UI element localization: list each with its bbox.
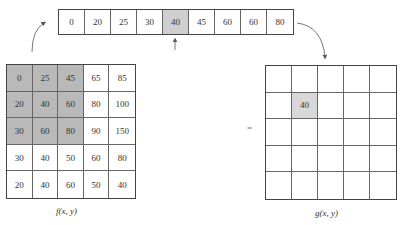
equals-sign: =: [247, 123, 252, 133]
output-pixel-cell: [344, 93, 370, 120]
sorted-value-cell: 0: [59, 10, 85, 34]
output-pixel-cell: [344, 119, 370, 146]
output-pixel-cell: [292, 172, 318, 199]
output-pixel-cell: [370, 146, 396, 173]
output-pixel-cell: [344, 66, 370, 93]
output-pixel-cell: [266, 66, 292, 93]
input-pixel-cell: 60: [84, 145, 110, 172]
output-pixel-cell: [292, 119, 318, 146]
input-pixel-cell: 150: [109, 118, 135, 145]
input-pixel-cell: 80: [109, 145, 135, 172]
output-pixel-cell: [318, 172, 344, 199]
output-pixel-cell: [318, 146, 344, 173]
right-curved-arrow-icon: [297, 23, 325, 57]
output-pixel-cell: [266, 93, 292, 120]
input-image-grid: 0254565852040608010030608090150304050608…: [6, 64, 136, 199]
input-pixel-cell: 90: [84, 118, 110, 145]
sorted-value-cell: 45: [189, 10, 215, 34]
output-pixel-cell: [318, 119, 344, 146]
sorted-value-cell: 25: [111, 10, 137, 34]
input-pixel-cell: 85: [109, 65, 135, 92]
input-pixel-cell: 60: [58, 171, 84, 198]
left-curved-arrow-icon: [32, 23, 44, 52]
input-pixel-cell: 40: [33, 171, 59, 198]
input-pixel-cell: 60: [33, 118, 59, 145]
input-pixel-cell: 80: [58, 118, 84, 145]
input-pixel-cell: 80: [84, 92, 110, 119]
input-pixel-cell: 60: [58, 92, 84, 119]
output-pixel-cell: [370, 66, 396, 93]
input-pixel-cell: 0: [7, 65, 33, 92]
input-pixel-cell: 65: [84, 65, 110, 92]
output-pixel-cell: [292, 66, 318, 93]
input-pixel-cell: 20: [7, 171, 33, 198]
sorted-value-cell: 60: [241, 10, 267, 34]
output-pixel-cell: [344, 172, 370, 199]
output-pixel-cell: [370, 172, 396, 199]
input-pixel-cell: 25: [33, 65, 59, 92]
output-pixel-cell: [266, 146, 292, 173]
input-pixel-cell: 40: [33, 145, 59, 172]
output-median-cell: 40: [292, 93, 318, 120]
output-pixel-cell: [370, 93, 396, 120]
sorted-value-cell: 20: [85, 10, 111, 34]
input-image-label: f(x, y): [56, 206, 77, 216]
output-pixel-cell: [266, 172, 292, 199]
sorted-value-cell: 30: [137, 10, 163, 34]
sorted-value-cell: 80: [267, 10, 293, 34]
input-pixel-cell: 50: [84, 171, 110, 198]
output-pixel-cell: [370, 119, 396, 146]
input-pixel-cell: 40: [33, 92, 59, 119]
median-cell: 40: [163, 10, 189, 34]
sorted-values-strip: 02025304045606080: [58, 9, 294, 35]
input-pixel-cell: 50: [58, 145, 84, 172]
output-image-label: g(x, y): [315, 208, 338, 218]
output-pixel-cell: [344, 146, 370, 173]
output-pixel-cell: [266, 119, 292, 146]
input-pixel-cell: 30: [7, 145, 33, 172]
input-pixel-cell: 40: [109, 171, 135, 198]
output-pixel-cell: [318, 93, 344, 120]
sorted-value-cell: 60: [215, 10, 241, 34]
output-image-grid: 40: [265, 65, 397, 200]
output-pixel-cell: [292, 146, 318, 173]
input-pixel-cell: 100: [109, 92, 135, 119]
input-pixel-cell: 45: [58, 65, 84, 92]
input-pixel-cell: 20: [7, 92, 33, 119]
input-pixel-cell: 30: [7, 118, 33, 145]
output-pixel-cell: [318, 66, 344, 93]
